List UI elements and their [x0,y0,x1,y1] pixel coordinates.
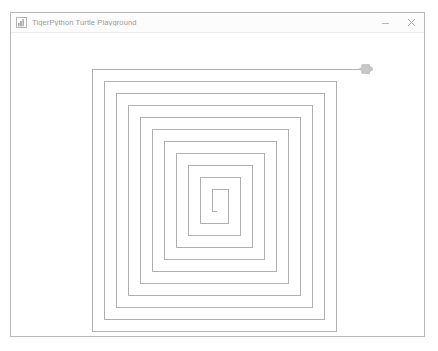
close-icon [407,18,416,27]
app-icon [16,17,27,28]
app-window: TigerPython Turtle Playground [10,12,425,337]
minimize-button[interactable] [372,13,398,32]
turtle-marker [359,64,373,75]
spiral-path [92,69,366,331]
title-bar: TigerPython Turtle Playground [11,13,424,33]
close-button[interactable] [398,13,424,32]
window-title: TigerPython Turtle Playground [32,19,372,27]
minimize-icon [381,18,390,27]
turtle-drawing-surface [11,33,424,336]
turtle-canvas[interactable] [11,33,424,336]
